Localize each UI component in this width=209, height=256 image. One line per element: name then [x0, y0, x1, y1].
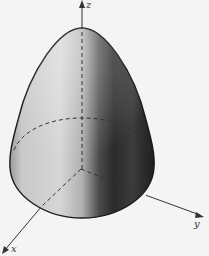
x-axis-label: x [11, 244, 17, 254]
paraboloid-diagram [0, 0, 209, 256]
x-axis-arrowhead [2, 246, 9, 254]
y-axis-line [148, 196, 200, 215]
paraboloid-figure: z y x [0, 0, 209, 256]
x-axis-line [4, 206, 42, 251]
z-axis-label: z [86, 0, 91, 10]
z-axis-arrowhead [79, 0, 85, 8]
y-axis-label: y [194, 219, 200, 229]
